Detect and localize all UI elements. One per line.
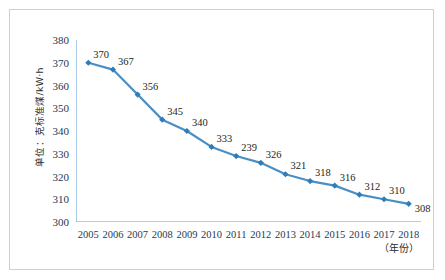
- x-axis-caption: （年份）: [379, 240, 419, 255]
- x-axis-tick-2017: 2017: [374, 229, 395, 240]
- chart-svg: [76, 40, 421, 222]
- x-axis-tick-2016: 2016: [349, 229, 370, 240]
- data-label-2010: 333: [217, 133, 233, 144]
- data-label-2012: 326: [266, 149, 282, 160]
- x-axis-tick-2007: 2007: [127, 229, 148, 240]
- x-axis-tick-2015: 2015: [324, 229, 345, 240]
- x-axis-tick-2018: 2018: [398, 229, 419, 240]
- x-axis-tick-2013: 2013: [275, 229, 296, 240]
- data-label-2018: 308: [415, 203, 431, 214]
- data-label-2008: 345: [167, 106, 183, 117]
- y-axis-tick-370: 370: [53, 57, 70, 69]
- chart-frame: 单位：克标准煤/kW·h 300310320330340350360370380…: [9, 9, 434, 270]
- data-label-2009: 340: [192, 117, 208, 128]
- x-axis-tick-2005: 2005: [78, 229, 99, 240]
- data-label-2014: 318: [315, 167, 331, 178]
- data-label-2011: 239: [241, 142, 257, 153]
- y-axis-tick-360: 360: [53, 80, 70, 92]
- x-axis-tick-2009: 2009: [176, 229, 197, 240]
- x-axis-tick-2012: 2012: [250, 229, 271, 240]
- y-axis-tick-310: 310: [53, 193, 70, 205]
- data-label-2016: 312: [364, 181, 380, 192]
- y-axis-tick-320: 320: [53, 171, 70, 183]
- y-axis-tick-300: 300: [53, 216, 70, 228]
- plot-area: 300310320330340350360370380 200520062007…: [76, 40, 421, 222]
- x-axis-tick-2014: 2014: [300, 229, 321, 240]
- y-axis-tick-340: 340: [53, 125, 70, 137]
- y-axis-tick-380: 380: [53, 34, 70, 46]
- y-axis-tick-350: 350: [53, 102, 70, 114]
- y-axis-tick-330: 330: [53, 148, 70, 160]
- x-axis-tick-2008: 2008: [152, 229, 173, 240]
- data-label-2005: 370: [93, 49, 109, 60]
- y-axis-title: 单位：克标准煤/kW·h: [32, 42, 46, 192]
- data-label-2013: 321: [290, 160, 306, 171]
- data-label-2006: 367: [118, 56, 134, 67]
- data-label-2015: 316: [340, 172, 356, 183]
- data-label-2007: 356: [143, 81, 159, 92]
- data-label-2017: 310: [389, 185, 405, 196]
- x-axis-tick-2006: 2006: [102, 229, 123, 240]
- x-axis-tick-2010: 2010: [201, 229, 222, 240]
- x-axis-tick-2011: 2011: [226, 229, 247, 240]
